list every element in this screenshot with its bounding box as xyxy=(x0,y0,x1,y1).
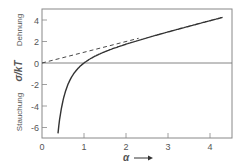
y-axis-ticks: -6-4-2024 xyxy=(31,16,47,134)
y-tick-label: 4 xyxy=(34,16,39,26)
x-tick-label: 1 xyxy=(81,142,86,152)
y-axis-label-main: σ/kT xyxy=(13,60,24,82)
x-axis-label-text: α xyxy=(123,152,130,163)
y-tick-label: 0 xyxy=(34,59,39,69)
y-axis-label-upper: Dehnung xyxy=(15,14,24,46)
chart: -6-4-2024 01234 σ/kT Dehnung Stauchung α xyxy=(0,0,244,165)
y-tick-label: -6 xyxy=(31,123,39,133)
x-tick-label: 3 xyxy=(165,142,170,152)
x-tick-label: 4 xyxy=(207,142,212,152)
x-tick-label: 2 xyxy=(123,142,128,152)
plot-frame xyxy=(42,9,232,138)
y-tick-label: 2 xyxy=(34,37,39,47)
stress-curve xyxy=(58,17,223,133)
y-axis-label-lower: Stauchung xyxy=(15,93,24,131)
arrowhead-icon xyxy=(148,156,153,161)
x-axis-ticks: 01234 xyxy=(39,133,212,152)
x-axis-label: α xyxy=(123,152,153,163)
x-tick-label: 0 xyxy=(39,142,44,152)
series-group xyxy=(42,17,223,133)
y-tick-label: -4 xyxy=(31,102,39,112)
y-axis-label: σ/kT xyxy=(13,60,24,82)
y-tick-label: -2 xyxy=(31,80,39,90)
